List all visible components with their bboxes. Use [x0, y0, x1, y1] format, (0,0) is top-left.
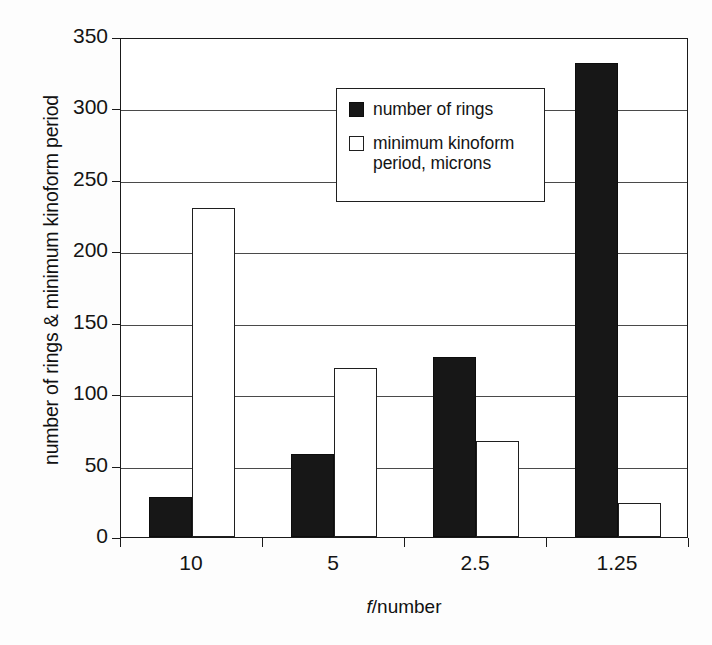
y-tick-label: 250 — [38, 167, 108, 191]
legend-label-line1: minimum kinoform — [373, 133, 514, 153]
legend-label-minimum-kinoform-period: minimum kinoform period, microns — [373, 133, 514, 173]
legend-item-number-of-rings: number of rings — [349, 99, 544, 119]
y-tick-label: 150 — [38, 310, 108, 334]
legend-item-minimum-kinoform-period: minimum kinoform period, microns — [349, 133, 544, 173]
y-tick-label: 100 — [38, 381, 108, 405]
x-tick-mark — [404, 538, 405, 547]
legend-label-number-of-rings: number of rings — [373, 99, 493, 119]
chart-legend: number of rings minimum kinoform period,… — [336, 88, 545, 202]
y-tick-label: 0 — [38, 524, 108, 548]
bar-chart-figure: number of rings & minimum kinoform perio… — [0, 0, 712, 645]
x-tick-label: 5 — [273, 551, 393, 575]
y-tick-label: 50 — [38, 453, 108, 477]
x-tick-mark — [546, 538, 547, 547]
bar-rings-10 — [149, 497, 192, 537]
x-axis-title-suffix: /number — [372, 596, 442, 617]
bar-rings-2.5 — [433, 357, 476, 537]
bar-period-1.25 — [618, 503, 661, 537]
x-tick-label: 1.25 — [557, 551, 677, 575]
legend-swatch-empty-square-icon — [349, 136, 364, 151]
bar-period-2.5 — [476, 441, 519, 537]
bar-rings-5 — [291, 454, 334, 537]
x-tick-mark — [688, 538, 689, 547]
x-tick-mark — [262, 538, 263, 547]
bar-rings-1.25 — [575, 63, 618, 537]
y-tick-label: 350 — [38, 24, 108, 48]
y-tick-label: 200 — [38, 238, 108, 262]
legend-swatch-filled-square-icon — [349, 102, 364, 117]
x-axis-title: f/number — [120, 596, 688, 618]
bar-period-5 — [334, 368, 377, 537]
x-tick-label: 10 — [131, 551, 251, 575]
x-tick-mark — [120, 538, 121, 547]
legend-label-line2: period, microns — [373, 153, 491, 173]
x-tick-label: 2.5 — [415, 551, 535, 575]
bar-period-10 — [192, 208, 235, 537]
y-tick-label: 300 — [38, 95, 108, 119]
